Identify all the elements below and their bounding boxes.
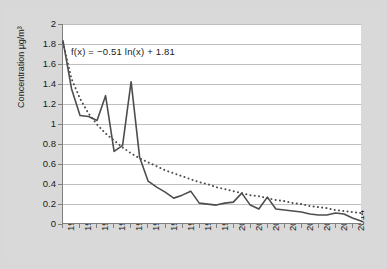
x-tick-mark — [113, 224, 114, 228]
y-tick-label: 0.6 — [26, 159, 56, 169]
x-tick-mark — [352, 224, 353, 228]
y-tick-label: 0.8 — [26, 139, 56, 149]
x-tick-mark — [62, 224, 63, 228]
x-tick-mark — [216, 224, 217, 228]
x-tick-mark — [318, 224, 319, 228]
data-series-concentration — [63, 41, 361, 221]
y-axis-title: Concentration μg/m³ — [16, 2, 26, 132]
y-tick-label: 1.6 — [26, 59, 56, 69]
x-tick-mark — [182, 224, 183, 228]
y-tick-label: 1.4 — [26, 79, 56, 89]
chart-canvas: Concentration μg/m³ 00.20.40.60.811.21.4… — [6, 6, 381, 263]
plot-area: f(x) = −0.51 ln(x) + 1.81 — [62, 24, 361, 224]
x-tick-mark — [199, 224, 200, 228]
trendline-logarithmic — [63, 43, 361, 213]
x-tick-mark — [233, 224, 234, 228]
x-tick-mark — [335, 224, 336, 228]
x-tick-mark — [96, 224, 97, 228]
y-tick-label: 1 — [26, 119, 56, 129]
x-tick-mark — [267, 224, 268, 228]
y-tick-label: 0.4 — [26, 179, 56, 189]
x-tick-mark — [301, 224, 302, 228]
x-tick-mark — [130, 224, 131, 228]
trendline-equation-label: f(x) = −0.51 ln(x) + 1.81 — [71, 46, 175, 57]
y-tick-label: 1.8 — [26, 39, 56, 49]
y-tick-label: 0.2 — [26, 199, 56, 209]
x-tick-mark — [284, 224, 285, 228]
chart-figure: Concentration μg/m³ 00.20.40.60.811.21.4… — [0, 0, 387, 269]
y-tick-label: 2 — [26, 19, 56, 29]
x-tick-mark — [165, 224, 166, 228]
y-tick-label: 1.2 — [26, 99, 56, 109]
x-tick-mark — [250, 224, 251, 228]
x-tick-mark — [79, 224, 80, 228]
y-tick-label: 0 — [26, 219, 56, 229]
x-tick-mark — [147, 224, 148, 228]
